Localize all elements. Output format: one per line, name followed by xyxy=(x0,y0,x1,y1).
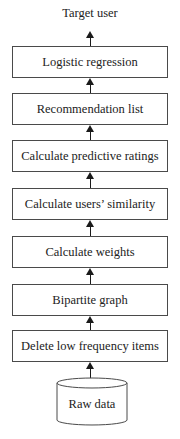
step-calculate-predictive-ratings: Calculate predictive ratings xyxy=(12,140,168,172)
step-delete-low-frequency-items: Delete low frequency items xyxy=(12,330,168,362)
arrow-up-icon xyxy=(86,220,94,236)
arrow-up-icon xyxy=(86,172,94,188)
step-logistic-regression: Logistic regression xyxy=(12,46,168,78)
step-bipartite-graph: Bipartite graph xyxy=(12,284,168,316)
step-recommendation-list: Recommendation list xyxy=(12,93,168,125)
arrow-up-icon xyxy=(86,125,94,140)
arrow-up-icon xyxy=(86,78,94,93)
raw-data-label: Raw data xyxy=(56,397,128,412)
arrow-up-icon xyxy=(86,268,94,284)
step-calculate-weights: Calculate weights xyxy=(12,236,168,268)
arrow-up-icon xyxy=(86,316,94,330)
output-label-target-user: Target user xyxy=(0,6,180,20)
raw-data-database: Raw data xyxy=(56,377,128,427)
arrow-up-icon xyxy=(86,31,94,46)
step-calculate-users-similarity: Calculate users’ similarity xyxy=(12,188,168,220)
